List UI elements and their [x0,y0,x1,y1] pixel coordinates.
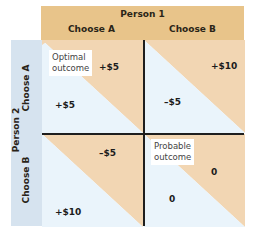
person1-payoff: +$5 [99,62,119,72]
person1-title: Person 1 [41,9,244,19]
person2-payoff: +$10 [55,207,81,217]
person1-payoff: –$5 [99,148,116,158]
person1-payoff: +$10 [211,61,237,71]
person2-sidebar: Choose A Person 2 Choose B [11,40,42,226]
cell-b-a: –$5 +$10 [42,134,143,227]
person1-payoff: 0 [211,167,217,177]
column-choose-a: Choose A [41,24,142,34]
column-choose-b: Choose B [142,24,243,34]
person1-header: Person 1 Choose A Choose B [41,6,244,40]
optimal-outcome-note: Optimal outcome [49,50,92,76]
cell-b-b: Probable outcome 0 0 [144,134,245,227]
person2-payoff: 0 [169,194,175,204]
person2-payoff: –$5 [164,97,181,107]
person2-title: Person 2 [11,100,21,160]
row-choose-b: Choose B [21,150,31,210]
horizontal-divider [42,133,244,135]
person2-payoff: +$5 [55,100,75,110]
payoff-matrix: Optimal outcome +$5 +$5 +$10 –$5 –$5 +$1… [42,40,244,226]
row-choose-a: Choose A [21,58,31,118]
probable-outcome-note: Probable outcome [151,139,194,165]
cell-a-a: Optimal outcome +$5 +$5 [42,40,143,133]
cell-diagonal-split [144,40,245,133]
cell-a-b: +$10 –$5 [144,40,245,133]
